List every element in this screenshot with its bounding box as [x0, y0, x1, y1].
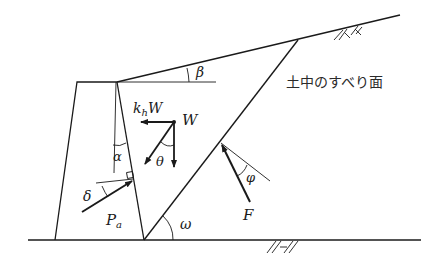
weight-label: W [182, 111, 199, 129]
alpha-label: α [113, 149, 122, 164]
retaining-wall-diagram: β α ω 土中のすべり面 khW W θ δ Pa φ F [0, 0, 441, 273]
slip-surface-label: 土中のすべり面 [286, 74, 383, 90]
omega-label: ω [180, 216, 192, 232]
weight-vector [172, 120, 176, 167]
reaction-label: F [242, 206, 254, 224]
theta-label: θ [156, 154, 164, 169]
phi-label: φ [246, 170, 256, 185]
retaining-wall [55, 82, 144, 240]
backfill-slope [117, 15, 400, 82]
slope-hatch-icon [334, 26, 362, 40]
beta-label: β [195, 64, 204, 80]
ground-hatch-icon [267, 241, 298, 253]
active-pressure-label: Pa [105, 211, 122, 230]
delta-label: δ [83, 188, 91, 204]
seismic-force-label: khW [133, 100, 164, 118]
